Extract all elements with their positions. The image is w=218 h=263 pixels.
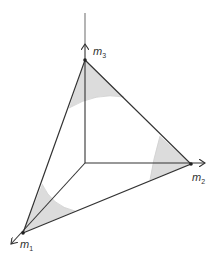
inscribed-curve bbox=[42, 96, 160, 211]
label-m1: m1 bbox=[20, 238, 33, 252]
vertex-m2 bbox=[189, 162, 193, 166]
simplex-diagram: m3 m2 m1 bbox=[0, 0, 218, 263]
shaded-regions bbox=[23, 60, 191, 233]
shaded-region-m3 bbox=[69, 60, 124, 108]
label-m2: m2 bbox=[192, 171, 205, 185]
label-m3: m3 bbox=[93, 45, 106, 59]
vertex-m3 bbox=[83, 58, 87, 62]
vertex-m1 bbox=[21, 231, 25, 235]
